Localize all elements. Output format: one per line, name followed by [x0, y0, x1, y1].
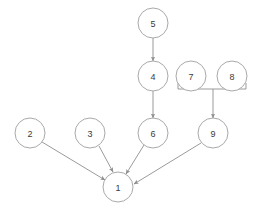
edge-9-to-1	[134, 143, 201, 184]
node-5[interactable]: 5	[138, 8, 168, 38]
node-label-6: 6	[150, 129, 155, 139]
node-3[interactable]: 3	[75, 118, 105, 148]
node-label-4: 4	[150, 72, 155, 82]
node-4[interactable]: 4	[138, 61, 168, 91]
node-label-3: 3	[87, 129, 92, 139]
edge-2-to-1	[42, 142, 105, 180]
edge-3-to-1	[99, 146, 113, 172]
node-9[interactable]: 9	[198, 118, 228, 148]
diagram-canvas: 123456789	[0, 0, 264, 214]
node-8[interactable]: 8	[217, 61, 247, 91]
edge-6-to-1	[126, 145, 144, 174]
edges-layer	[42, 38, 213, 184]
nodes-layer: 123456789	[15, 8, 247, 202]
node-label-9: 9	[210, 129, 215, 139]
node-2[interactable]: 2	[15, 118, 45, 148]
node-label-1: 1	[115, 183, 120, 193]
node-1[interactable]: 1	[103, 172, 133, 202]
node-label-5: 5	[150, 19, 155, 29]
node-label-8: 8	[229, 72, 234, 82]
graph-svg: 123456789	[0, 0, 264, 214]
node-label-7: 7	[188, 72, 193, 82]
node-6[interactable]: 6	[138, 118, 168, 148]
node-7[interactable]: 7	[176, 61, 206, 91]
node-label-2: 2	[27, 129, 32, 139]
